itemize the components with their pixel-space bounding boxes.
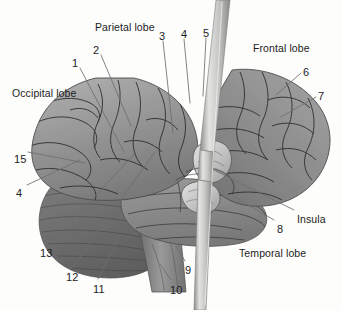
leader-4-top — [184, 39, 190, 103]
label-number-2: 2 — [93, 45, 99, 56]
label-number-11: 11 — [93, 284, 105, 295]
brain-diagram-figure: Parietal lobe Frontal lobe Occipital lob… — [0, 0, 342, 310]
label-number-3: 3 — [159, 31, 165, 42]
label-number-4-left: 4 — [16, 188, 22, 199]
label-number-5: 5 — [203, 28, 209, 39]
label-number-4-top: 4 — [181, 29, 187, 40]
label-number-15: 15 — [14, 154, 27, 165]
label-number-10: 10 — [170, 285, 183, 296]
label-parietal-lobe: Parietal lobe — [95, 22, 155, 33]
label-number-1: 1 — [72, 58, 78, 69]
label-number-7: 7 — [318, 91, 324, 102]
label-temporal-lobe: Temporal lobe — [239, 248, 306, 259]
label-insula: Insula — [297, 214, 326, 225]
label-number-13: 13 — [40, 248, 53, 259]
leader-5 — [203, 38, 206, 96]
label-number-12: 12 — [66, 272, 79, 283]
frontal-cortex-shape — [204, 69, 330, 206]
label-number-6: 6 — [303, 67, 309, 78]
label-frontal-lobe: Frontal lobe — [253, 43, 310, 54]
label-occipital-lobe: Occipital lobe — [12, 88, 76, 99]
label-number-9: 9 — [185, 265, 191, 276]
label-number-8: 8 — [277, 224, 283, 235]
